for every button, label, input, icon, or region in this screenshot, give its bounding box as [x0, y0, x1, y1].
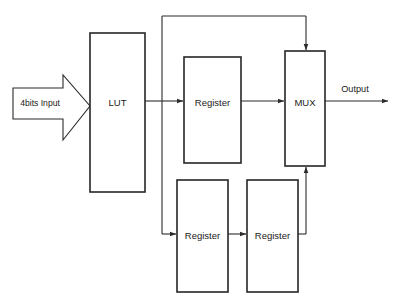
block-register-top: [184, 57, 241, 163]
block-diagram-canvas: 4bits Input LUT Register MUX Register Re…: [0, 0, 401, 298]
block-label-register-bottom-left: Register: [185, 230, 220, 241]
input-label: 4bits Input: [20, 98, 60, 108]
output-label: Output: [341, 84, 369, 94]
block-mux: [285, 51, 325, 166]
block-lut: [90, 33, 145, 192]
block-label-register-top: Register: [195, 97, 230, 108]
block-label-lut: LUT: [109, 97, 127, 108]
block-label-register-bottom-right: Register: [255, 230, 290, 241]
block-diagram-svg: 4bits Input LUT Register MUX Register Re…: [0, 0, 401, 298]
block-label-mux: MUX: [294, 97, 316, 108]
